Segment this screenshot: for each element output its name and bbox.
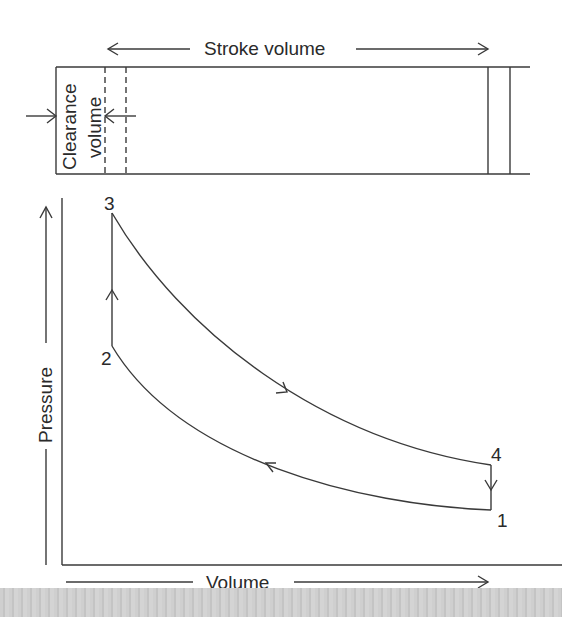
scan-border-strip: [0, 588, 562, 617]
process-3-4: [112, 213, 491, 465]
pv-diagram: [0, 0, 562, 617]
clearance-arrow-left: [26, 109, 56, 123]
clearance-label-line1: Clearance: [60, 83, 79, 170]
stroke-volume-label: Stroke volume: [204, 39, 325, 58]
stroke-arrow-left: [108, 43, 190, 55]
point-label-2: 2: [101, 349, 112, 368]
clearance-arrow-right: [105, 109, 136, 123]
process-1-2: [112, 346, 491, 510]
volume-arrow: [66, 576, 488, 588]
point-label-1: 1: [497, 511, 508, 530]
pressure-axis-label: Pressure: [36, 367, 55, 443]
cylinder: [56, 67, 530, 174]
clearance-label-line2: volume: [85, 97, 104, 158]
point-label-4: 4: [491, 445, 502, 464]
point-label-3: 3: [104, 194, 115, 213]
stroke-arrow-right: [356, 43, 488, 55]
